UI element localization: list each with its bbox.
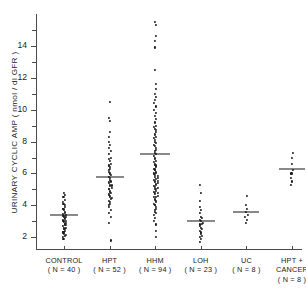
y-axis-line — [36, 14, 37, 250]
group-n-label: ( N = 52 ) — [93, 265, 126, 274]
data-point — [108, 153, 110, 155]
y-tick-label-12: 12 — [17, 72, 27, 82]
data-point — [155, 24, 157, 26]
group-name: CONTROL — [45, 256, 82, 265]
data-point — [155, 230, 157, 232]
data-point — [199, 241, 201, 243]
x-tick-2 — [155, 246, 156, 250]
group-name-line1: HPT + — [281, 256, 303, 265]
group-n-label: ( N = 40 ) — [45, 265, 82, 274]
y-tick-minor-11 — [32, 94, 37, 95]
x-tick-5 — [292, 246, 293, 250]
data-point — [292, 169, 294, 171]
data-point — [291, 180, 293, 182]
data-point — [154, 115, 156, 117]
x-axis-line — [36, 249, 302, 250]
data-point — [291, 163, 293, 165]
data-point — [246, 207, 248, 209]
y-tick-minor-13 — [32, 62, 37, 63]
group-label-loh: LOH( N = 23 ) — [184, 256, 217, 275]
y-tick-label-10: 10 — [17, 104, 27, 114]
data-point — [154, 69, 156, 71]
data-point — [109, 101, 111, 103]
data-point — [199, 200, 201, 202]
group-name: HPT — [102, 256, 117, 265]
data-point — [246, 195, 248, 197]
data-point — [155, 112, 157, 114]
y-tick-8: 8 — [31, 142, 37, 143]
data-point — [155, 96, 157, 98]
group-n-label: ( N = 8 ) — [232, 265, 260, 274]
y-tick-label-2: 2 — [22, 231, 27, 241]
mean-line-hhm — [140, 154, 170, 155]
data-point — [109, 120, 111, 122]
data-point — [155, 118, 157, 120]
y-tick-2: 2 — [31, 237, 37, 238]
data-point — [153, 220, 155, 222]
data-point — [110, 215, 112, 217]
data-point — [246, 214, 248, 216]
group-label-hpt: HPT( N = 52 ) — [93, 256, 126, 275]
y-tick-minor-3 — [32, 221, 37, 222]
data-point — [202, 222, 204, 224]
data-point — [108, 212, 110, 214]
data-point — [65, 216, 67, 218]
data-point — [157, 182, 159, 184]
mean-line-control — [50, 214, 78, 215]
data-point — [107, 117, 109, 119]
x-tick-4 — [246, 246, 247, 250]
group-name: LOH — [193, 256, 209, 265]
data-point — [110, 163, 112, 165]
group-label-hhm: HHM( N = 94 ) — [139, 256, 172, 275]
y-tick-label-4: 4 — [22, 199, 27, 209]
data-point — [245, 204, 247, 206]
data-point — [109, 144, 111, 146]
y-tick-minor-15 — [32, 30, 37, 31]
data-point — [157, 192, 159, 194]
data-point — [290, 177, 292, 179]
data-point — [245, 222, 247, 224]
data-point — [157, 187, 159, 189]
plot-area: 2468101214 — [36, 14, 302, 250]
x-tick-0 — [64, 246, 65, 250]
x-tick-3 — [201, 246, 202, 250]
data-point — [199, 184, 201, 186]
group-label-uc: UC( N = 8 ) — [232, 256, 260, 275]
mean-line-uc — [233, 211, 259, 212]
group-n-label: ( N = 94 ) — [139, 265, 172, 274]
data-point — [154, 217, 156, 219]
x-tick-1 — [110, 246, 111, 250]
data-point — [291, 156, 293, 158]
y-axis-label: URINARY CYCLIC AMP ( nmol / dl GFR ) — [10, 33, 19, 233]
data-point — [110, 156, 112, 158]
data-point — [155, 236, 157, 238]
data-point — [155, 83, 157, 85]
data-point — [153, 109, 155, 111]
data-point — [290, 184, 292, 186]
data-point — [110, 150, 112, 152]
data-point — [108, 147, 110, 149]
data-point — [111, 197, 113, 199]
y-tick-6: 6 — [31, 173, 37, 174]
data-point — [65, 227, 67, 229]
data-point — [246, 219, 248, 221]
group-label-hpt-cancer: HPT +CANCER( N = 8 ) — [276, 256, 306, 284]
data-point — [154, 99, 156, 101]
y-tick-label-14: 14 — [17, 40, 27, 50]
data-point — [155, 125, 157, 127]
data-point — [157, 195, 159, 197]
data-point — [155, 35, 157, 37]
y-tick-4: 4 — [31, 205, 37, 206]
mean-line-hpt-cancer — [279, 168, 305, 169]
data-point — [111, 187, 113, 189]
data-point — [155, 88, 157, 90]
data-point — [154, 121, 156, 123]
group-label-control: CONTROL( N = 40 ) — [45, 256, 82, 275]
data-point — [110, 209, 112, 211]
data-point — [107, 222, 109, 224]
group-name: UC — [241, 256, 252, 265]
data-point — [199, 212, 201, 214]
data-point — [292, 152, 294, 154]
data-point — [155, 223, 157, 225]
data-point — [153, 102, 155, 104]
